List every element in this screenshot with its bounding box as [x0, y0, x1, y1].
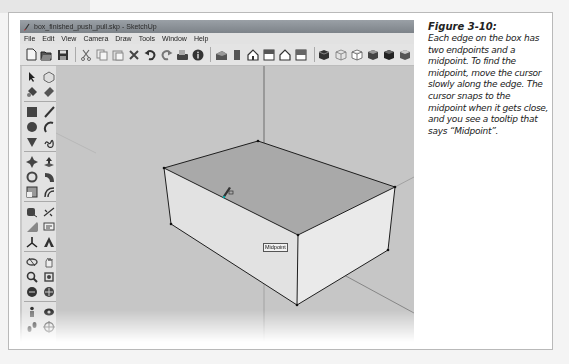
menu-bar: File Edit View Camera Draw Tools Window … — [20, 33, 414, 44]
axes-icon[interactable] — [24, 235, 39, 248]
erase-icon[interactable] — [127, 48, 141, 62]
main-toolbar — [20, 44, 414, 66]
house-view-icon[interactable] — [279, 48, 293, 62]
pan-icon[interactable] — [41, 255, 56, 268]
make-component-icon[interactable] — [41, 70, 56, 83]
polygon-icon[interactable] — [24, 135, 39, 148]
model-info-icon[interactable] — [191, 48, 205, 62]
protractor-icon[interactable] — [24, 220, 39, 233]
dimension-icon[interactable] — [41, 205, 56, 218]
window-title: box_finished_push_pull.skp - SketchUp — [34, 23, 157, 30]
menu-draw[interactable]: Draw — [115, 35, 131, 42]
previous-view-icon[interactable] — [24, 285, 39, 298]
zoom-icon[interactable] — [24, 270, 39, 283]
bottom-view-icon[interactable] — [295, 48, 309, 62]
midpoint-tooltip: Midpoint — [263, 243, 288, 252]
shaded-texture-style-icon[interactable] — [382, 48, 396, 62]
iso-view-icon[interactable] — [214, 48, 228, 62]
rectangle-icon[interactable] — [24, 105, 39, 118]
wireframe-style-icon[interactable] — [334, 48, 348, 62]
copy-icon[interactable] — [95, 48, 109, 62]
orbit-icon[interactable] — [24, 255, 39, 268]
section-plane-icon[interactable] — [41, 320, 56, 333]
shaded-style-icon[interactable] — [366, 48, 380, 62]
text-icon[interactable] — [41, 220, 56, 233]
walk-icon[interactable] — [24, 320, 39, 333]
tape-measure-icon[interactable] — [24, 205, 39, 218]
title-bar: box_finished_push_pull.skp - SketchUp — [20, 20, 414, 33]
3d-box-model — [56, 66, 414, 342]
monochrome-style-icon[interactable] — [398, 48, 412, 62]
zoom-window-icon[interactable] — [41, 270, 56, 283]
front-view-icon[interactable] — [231, 48, 245, 62]
move-icon[interactable] — [24, 155, 39, 168]
home-view-icon[interactable] — [247, 48, 261, 62]
toolbar-separator — [210, 47, 211, 62]
xray-style-icon[interactable] — [318, 48, 332, 62]
menu-help[interactable]: Help — [194, 35, 208, 42]
follow-me-icon[interactable] — [41, 170, 56, 183]
zoom-extents-icon[interactable] — [41, 285, 56, 298]
line-icon[interactable] — [41, 105, 56, 118]
offset-icon[interactable] — [41, 185, 56, 198]
top-view-icon[interactable] — [263, 48, 277, 62]
toolbar-separator — [75, 47, 76, 62]
select-icon[interactable] — [24, 70, 39, 83]
figure-description: Each edge on the box has two endpoints a… — [428, 33, 550, 137]
new-icon[interactable] — [24, 48, 38, 62]
save-icon[interactable] — [56, 48, 70, 62]
figure-caption: Figure 3-10: Each edge on the box has tw… — [428, 21, 550, 137]
cut-icon[interactable] — [79, 48, 93, 62]
menu-tools[interactable]: Tools — [139, 35, 155, 42]
eraser-icon[interactable] — [41, 85, 56, 98]
left-tool-palette — [22, 66, 57, 342]
red-axis-line — [344, 275, 414, 313]
menu-view[interactable]: View — [61, 35, 76, 42]
look-around-icon[interactable] — [41, 305, 56, 318]
freehand-icon[interactable] — [41, 135, 56, 148]
position-camera-icon[interactable] — [24, 305, 39, 318]
menu-camera[interactable]: Camera — [83, 35, 108, 42]
menu-window[interactable]: Window — [162, 35, 187, 42]
3d-text-icon[interactable] — [41, 235, 56, 248]
faint-guide-line — [56, 133, 96, 153]
redo-icon[interactable] — [159, 48, 173, 62]
menu-file[interactable]: File — [24, 35, 35, 42]
print-icon[interactable] — [175, 48, 189, 62]
toolbar-separator — [314, 47, 315, 62]
open-icon[interactable] — [40, 48, 54, 62]
rotate-icon[interactable] — [24, 170, 39, 183]
sketchup-app-icon — [24, 23, 30, 31]
circle-icon[interactable] — [24, 120, 39, 133]
hidden-line-style-icon[interactable] — [350, 48, 364, 62]
sketchup-window: box_finished_push_pull.skp - SketchUp Fi… — [20, 20, 414, 342]
drawing-viewport[interactable]: Midpoint — [56, 66, 414, 342]
undo-icon[interactable] — [143, 48, 157, 62]
paint-bucket-icon[interactable] — [24, 85, 39, 98]
arc-icon[interactable] — [41, 120, 56, 133]
figure-label: Figure 3-10: — [428, 21, 550, 33]
menu-edit[interactable]: Edit — [42, 35, 54, 42]
push-pull-icon[interactable] — [41, 155, 56, 168]
green-axis-line — [395, 177, 414, 187]
scale-icon[interactable] — [24, 185, 39, 198]
paste-icon[interactable] — [111, 48, 125, 62]
